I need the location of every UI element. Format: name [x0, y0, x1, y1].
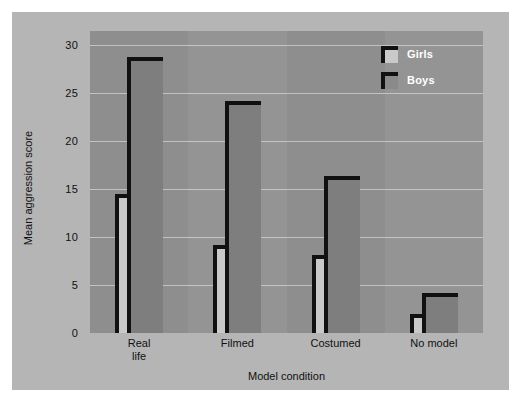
y-tick-label: 25	[65, 87, 78, 99]
y-tick-label: 5	[72, 279, 78, 291]
y-axis-tick-labels: 051015202530	[12, 31, 86, 333]
x-axis-title: Model condition	[90, 370, 483, 382]
legend-label-girls: Girls	[407, 48, 433, 60]
bar-boys-1	[225, 101, 261, 333]
legend-label-boys: Boys	[407, 74, 435, 86]
legend-item-boys: Boys	[381, 67, 473, 93]
x-tick-label: No model	[410, 337, 457, 350]
chart-figure: Mean aggression score 051015202530 Girls…	[12, 12, 509, 390]
chart-legend: Girls Boys	[381, 41, 473, 93]
x-tick-label: Real life	[128, 337, 151, 363]
bar-boys-2	[324, 176, 360, 333]
x-tick-label: Filmed	[221, 337, 254, 350]
y-tick-label: 20	[65, 135, 78, 147]
legend-item-girls: Girls	[381, 41, 473, 67]
legend-swatch-girls	[381, 46, 398, 63]
bar-boys-0	[127, 57, 163, 333]
legend-swatch-boys	[381, 72, 398, 89]
y-tick-label: 30	[65, 39, 78, 51]
x-tick-label: Costumed	[311, 337, 361, 350]
bar-boys-3	[422, 293, 458, 333]
y-tick-label: 0	[72, 327, 78, 339]
y-tick-label: 15	[65, 183, 78, 195]
plot-area: Girls Boys	[90, 31, 483, 333]
y-tick-label: 10	[65, 231, 78, 243]
